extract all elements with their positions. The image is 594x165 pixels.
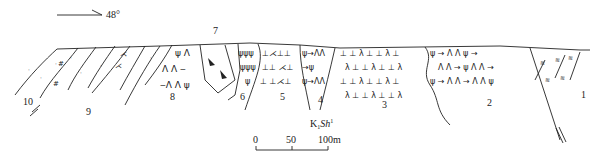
unit-7 xyxy=(200,45,235,93)
svg-text:⊥⊥ ⋌⊥: ⊥⊥ ⋌⊥ xyxy=(262,63,293,72)
formation-label: K1Sh1 xyxy=(310,118,333,130)
svg-text:⋌: ⋌ xyxy=(120,50,127,58)
svg-text:·: · xyxy=(70,54,72,61)
svg-text:·: · xyxy=(80,69,82,76)
svg-text:≋: ≋ xyxy=(560,74,565,81)
geological-cross-section: 48° · · · · · · · · # # ⋌ ⋌ ψ Λ Λ Λ ‒ ‒Λ… xyxy=(0,0,594,165)
svg-text:ψ Λ: ψ Λ xyxy=(175,48,191,58)
svg-text:≋: ≋ xyxy=(555,56,560,63)
svg-text:⊥⋌⊥⊥: ⊥⋌⊥⊥ xyxy=(262,49,291,58)
orientation-angle-label: 48° xyxy=(106,9,120,20)
svg-text:K1Sh1: K1Sh1 xyxy=(310,118,333,130)
svg-text:‒Λ Λ ψ: ‒Λ Λ ψ xyxy=(160,80,190,90)
svg-text:λ ⊥ ⊥ λ ⊥ ⊥ λ: λ ⊥ ⊥ λ ⊥ ⊥ λ xyxy=(345,91,403,100)
scale-tick-50: 50 xyxy=(286,134,296,145)
label-unit-7: 7 xyxy=(213,25,218,36)
svg-text:≋: ≋ xyxy=(540,59,545,66)
label-unit-2: 2 xyxy=(487,97,492,108)
unit-3: ⊥ ⊥ λ ⊥ ⊥ λ ⊥ λ ⊥ ⊥ λ ⊥ ⊥ λ ⊥ ⊥ λ ⊥ ⊥ λ … xyxy=(340,47,450,125)
svg-text:ψ: ψ xyxy=(245,77,250,86)
unit-1: ≋ ≋ ≋ ≋ ≋ xyxy=(530,48,580,143)
svg-text:≋: ≋ xyxy=(545,76,550,83)
unit-2: ψ → Λ Λ ψ → Λ Λ → ψ Λ Λ → ψ → Λ Λ → Λ Λ … xyxy=(430,49,494,86)
label-unit-1: 1 xyxy=(581,89,586,100)
unit-8: ψ Λ Λ Λ ‒ ‒Λ Λ ψ xyxy=(160,48,191,90)
svg-text:ψ → Λ Λ ψ →: ψ → Λ Λ ψ → xyxy=(430,49,478,58)
svg-text:·: · xyxy=(150,54,152,61)
scale-tick-0: 0 xyxy=(253,134,258,145)
svg-text:ψ→ΛΛ: ψ→ΛΛ xyxy=(302,77,325,86)
section-drawing: 48° · · · · · · · · # # ⋌ ⋌ ψ Λ Λ Λ ‒ ‒Λ… xyxy=(0,0,594,165)
svg-text:·: · xyxy=(40,74,42,81)
svg-text:≋: ≋ xyxy=(568,54,573,61)
svg-text:·: · xyxy=(100,62,102,69)
label-unit-5: 5 xyxy=(280,91,285,102)
svg-text:ψ→ΛΛ: ψ→ΛΛ xyxy=(302,49,325,58)
orientation-arrow xyxy=(57,10,102,15)
svg-text:#: # xyxy=(58,60,64,68)
svg-text:→ψ: →ψ xyxy=(302,63,314,72)
svg-text:Λ Λ → ψ Λ Λ →: Λ Λ → ψ Λ Λ → xyxy=(438,63,494,72)
svg-text:⋌: ⋌ xyxy=(115,62,122,70)
unit-9-10-beds: · · · · · · · · # # ⋌ ⋌ xyxy=(15,45,172,116)
svg-text:ψψψ: ψψψ xyxy=(238,49,254,58)
svg-text:·: · xyxy=(28,66,30,73)
svg-text:⊥ ⊥⋌⊥: ⊥ ⊥⋌⊥ xyxy=(260,77,291,86)
scale-tick-100m: 100m xyxy=(318,134,341,145)
svg-text:⊥ ⊥ λ ⊥ ⊥ λ ⊥: ⊥ ⊥ λ ⊥ ⊥ λ ⊥ xyxy=(340,49,400,58)
svg-text:·: · xyxy=(55,60,57,67)
label-unit-8: 8 xyxy=(170,91,175,102)
svg-text:⊥ ⊥ λ ⊥ ⊥ λ ⊥: ⊥ ⊥ λ ⊥ ⊥ λ ⊥ xyxy=(340,77,400,86)
svg-text:Λ Λ ‒: Λ Λ ‒ xyxy=(162,64,186,74)
label-unit-9: 9 xyxy=(86,106,91,117)
svg-text:ψψψ: ψψψ xyxy=(240,63,256,72)
svg-text:λ ⊥ ⊥ λ ⊥ ⊥ λ: λ ⊥ ⊥ λ ⊥ ⊥ λ xyxy=(345,63,403,72)
svg-text:ψ → Λ Λ → Λ Λ ψ: ψ → Λ Λ → Λ Λ ψ xyxy=(430,77,494,86)
scale-bar: 0 50 100m xyxy=(253,134,341,150)
label-unit-4: 4 xyxy=(318,94,323,105)
label-unit-6: 6 xyxy=(240,91,245,102)
label-unit-10: 10 xyxy=(23,96,33,107)
svg-text:#: # xyxy=(53,80,59,88)
label-unit-3: 3 xyxy=(382,99,387,110)
